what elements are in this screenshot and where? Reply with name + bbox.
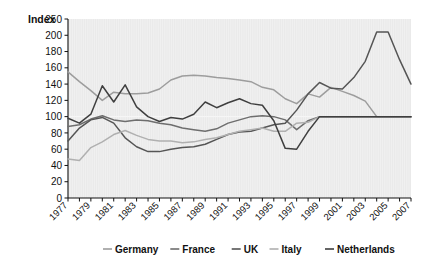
x-tick-label: 1985 <box>138 200 161 223</box>
y-tick-label: 60 <box>51 144 63 155</box>
x-tick-label: 1977 <box>47 200 70 223</box>
legend-label: France <box>182 244 215 255</box>
y-axis-title: Index <box>28 13 56 25</box>
x-tick-label: 2007 <box>390 200 413 223</box>
y-tick-label: 40 <box>51 160 63 171</box>
y-tick-label: 120 <box>45 95 62 106</box>
y-tick-label: 140 <box>45 79 62 90</box>
x-tick-label: 2001 <box>321 200 344 223</box>
y-tick-label: 100 <box>45 111 62 122</box>
legend-item-italy[interactable]: Italy <box>270 244 302 255</box>
legend-item-france[interactable]: France <box>170 244 215 255</box>
legend-item-netherlands[interactable]: Netherlands <box>325 244 395 255</box>
y-tick-label: 160 <box>45 62 62 73</box>
legend-item-uk[interactable]: UK <box>232 244 259 255</box>
x-tick-label: 1993 <box>230 200 253 223</box>
y-tick-label: 80 <box>51 128 63 139</box>
legend-label: Germany <box>115 244 159 255</box>
x-tick-label: 2003 <box>344 200 367 223</box>
x-tick-label: 1997 <box>275 200 298 223</box>
x-tick-label: 1987 <box>161 200 184 223</box>
x-tick-label: 1981 <box>92 200 115 223</box>
index-line-chart: 020406080100120140160180200250Index19771… <box>0 0 431 264</box>
x-tick-label: 1989 <box>184 200 207 223</box>
legend-label: Netherlands <box>337 244 395 255</box>
x-tick-label: 1979 <box>70 200 93 223</box>
x-tick-label: 1991 <box>207 200 230 223</box>
y-tick-label: 200 <box>45 30 62 41</box>
x-tick-label: 1999 <box>298 200 321 223</box>
legend-item-germany[interactable]: Germany <box>103 244 159 255</box>
legend-label: UK <box>244 244 259 255</box>
x-tick-label: 1995 <box>252 200 275 223</box>
x-tick-label: 2005 <box>367 200 390 223</box>
legend-label: Italy <box>282 244 302 255</box>
x-tick-label: 1983 <box>115 200 138 223</box>
y-tick-label: 180 <box>45 46 62 57</box>
y-tick-label: 20 <box>51 176 63 187</box>
chart-container: 020406080100120140160180200250Index19771… <box>0 0 431 264</box>
